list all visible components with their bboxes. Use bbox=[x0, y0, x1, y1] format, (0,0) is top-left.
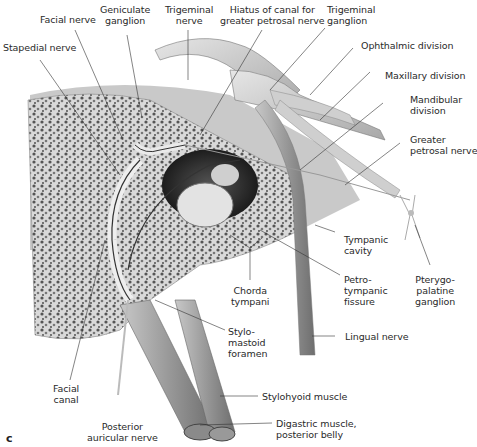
label-chorda-tympani: Chorda tympani bbox=[231, 285, 269, 307]
label-tympanic-cavity: Tympanic cavity bbox=[344, 234, 388, 256]
label-trigeminal-nerve: Trigeminal nerve bbox=[165, 4, 213, 26]
label-geniculate-ganglion: Geniculate ganglion bbox=[100, 4, 150, 26]
anatomical-figure: Facial nerve Geniculate ganglion Trigemi… bbox=[0, 0, 477, 447]
label-greater-petrosal-nerve: Greater petrosal nerve bbox=[410, 134, 477, 156]
label-facial-canal: Facial canal bbox=[53, 383, 79, 405]
label-lingual-nerve: Lingual nerve bbox=[345, 331, 408, 342]
label-pterygopalatine-ganglion: Pterygo- palatine ganglion bbox=[415, 274, 455, 307]
label-hiatus-greater-petrosal-canal: Hiatus of canal for greater petrosal ner… bbox=[220, 4, 324, 26]
label-ophthalmic-division: Ophthalmic division bbox=[361, 40, 453, 51]
label-posterior-auricular-nerve: Posterior auricular nerve bbox=[87, 421, 158, 443]
label-digastric-muscle-posterior-belly: Digastric muscle, posterior belly bbox=[276, 418, 357, 440]
label-stylomastoid-foramen: Stylo- mastoid foramen bbox=[228, 326, 267, 359]
label-maxillary-division: Maxillary division bbox=[385, 70, 465, 81]
label-trigeminal-ganglion: Trigeminal ganglion bbox=[327, 4, 375, 26]
label-mandibular-division: Mandibular division bbox=[410, 94, 462, 116]
illustration bbox=[0, 0, 477, 447]
label-stylohyoid-muscle: Stylohyoid muscle bbox=[262, 391, 347, 402]
panel-letter: c bbox=[6, 432, 13, 445]
label-stapedial-nerve: Stapedial nerve bbox=[3, 42, 76, 53]
label-petrotympanic-fissure: Petro- tympanic fissure bbox=[344, 274, 388, 307]
label-facial-nerve: Facial nerve bbox=[40, 14, 96, 25]
